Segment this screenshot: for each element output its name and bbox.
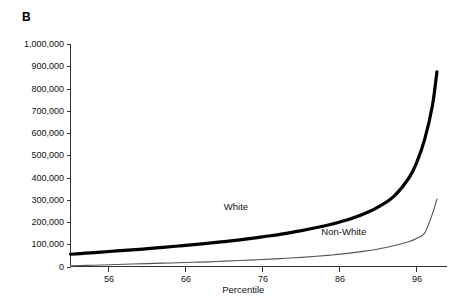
y-tick-label: 700,000 [31, 106, 64, 116]
y-tick-label: 100,000 [31, 239, 64, 249]
line-chart: 0100,000200,000300,000400,000500,000600,… [0, 0, 457, 306]
y-tick-label: 0 [59, 262, 64, 272]
chart-svg: 0100,000200,000300,000400,000500,000600,… [0, 0, 457, 306]
x-tick-label: 66 [181, 274, 191, 284]
y-tick-label: 600,000 [31, 128, 64, 138]
y-tick-label: 300,000 [31, 195, 64, 205]
x-tick-label: 56 [104, 274, 114, 284]
series-label: Non-White [321, 226, 366, 237]
series-label: White [224, 201, 248, 212]
y-axis-tick-labels: 0100,000200,000300,000400,000500,000600,… [24, 39, 64, 272]
y-tick-label: 800,000 [31, 84, 64, 94]
x-axis-title: Percentile [222, 284, 264, 295]
y-tick-label: 1,000,000 [24, 39, 64, 49]
y-tick-label: 400,000 [31, 173, 64, 183]
series-line-white [71, 72, 437, 254]
y-axis-tick-marks [67, 45, 71, 268]
series-line-non-white [71, 199, 437, 266]
y-tick-label: 200,000 [31, 217, 64, 227]
y-tick-label: 900,000 [31, 61, 64, 71]
x-axis-tick-labels: 5666768696 [104, 274, 422, 284]
x-tick-label: 96 [412, 274, 422, 284]
x-tick-label: 86 [335, 274, 345, 284]
figure-panel-b: B 0100,000200,000300,000400,000500,00060… [0, 0, 457, 306]
x-tick-label: 76 [258, 274, 268, 284]
y-tick-label: 500,000 [31, 150, 64, 160]
x-axis-tick-marks [109, 267, 417, 272]
